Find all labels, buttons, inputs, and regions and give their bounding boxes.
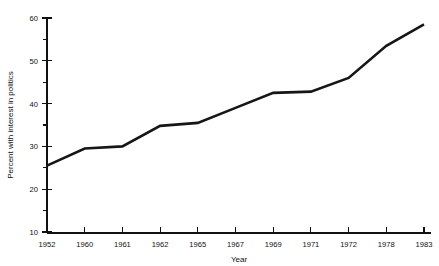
y-tick-label: 50 — [30, 57, 38, 66]
x-tick-label: 1952 — [39, 240, 56, 249]
x-tick-label: 1969 — [265, 240, 282, 249]
y-tick-label: 20 — [30, 185, 38, 194]
axes-group — [47, 17, 431, 233]
y-axis-tick-labels: 102030405060 — [30, 14, 38, 237]
x-tick-label: 1962 — [152, 240, 169, 249]
x-axis-title: Year — [231, 255, 248, 264]
y-tick-label: 30 — [30, 142, 38, 151]
line-chart: 102030405060 195219601961196219651967196… — [0, 0, 439, 266]
x-tick-label: 1965 — [189, 240, 206, 249]
data-series-line — [47, 24, 424, 165]
chart-canvas: 102030405060 195219601961196219651967196… — [0, 0, 439, 266]
x-axis-ticks — [47, 227, 424, 233]
y-tick-label: 60 — [30, 14, 38, 23]
x-tick-label: 1978 — [378, 240, 395, 249]
y-tick-label: 10 — [30, 228, 38, 237]
x-tick-label: 1972 — [340, 240, 357, 249]
x-tick-label: 1960 — [76, 240, 93, 249]
y-tick-label: 40 — [30, 100, 38, 109]
x-tick-label: 1971 — [302, 240, 319, 249]
y-axis-title: Percent with interest in politics — [6, 71, 15, 179]
x-tick-label: 1967 — [227, 240, 244, 249]
x-tick-label: 1983 — [416, 240, 433, 249]
x-axis-tick-labels: 1952196019611962196519671969197119721978… — [39, 240, 433, 249]
x-tick-label: 1961 — [114, 240, 131, 249]
